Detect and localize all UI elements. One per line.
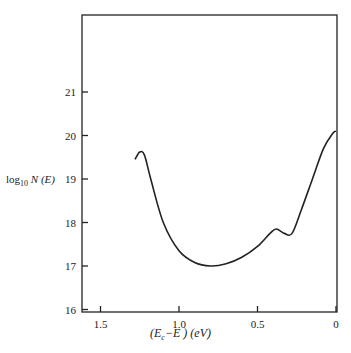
x-tick-label: 0.5 [251,318,265,330]
y-tick-label: 17 [65,260,77,272]
y-tick-label: 18 [65,217,77,229]
x-tick-label: 1.5 [94,318,108,330]
y-tick-label: 20 [65,130,77,142]
x-tick-label: 0 [333,318,339,330]
y-tick-label: 16 [65,304,77,316]
x-axis-label: (Ec−E ) (eV) [150,326,211,342]
y-tick-label: 21 [65,86,76,98]
density-of-states-curve [135,131,336,266]
plot-frame [82,15,337,312]
y-axis-label: log10 N (E) [6,173,55,188]
y-tick-label: 19 [65,173,77,185]
